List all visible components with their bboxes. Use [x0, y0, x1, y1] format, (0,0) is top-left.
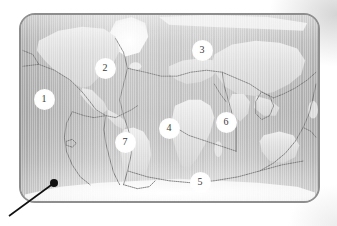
marker-7[interactable]: 7: [115, 132, 136, 153]
marker-6-label: 6: [224, 117, 229, 127]
tectonic-plates-figure: 1 2 3 4 5 6 7: [0, 0, 337, 226]
marker-1-label: 1: [42, 94, 47, 104]
marker-3[interactable]: 3: [192, 40, 213, 61]
map-vignette: [21, 15, 318, 201]
marker-1[interactable]: 1: [34, 89, 55, 110]
marker-4-label: 4: [167, 123, 172, 133]
marker-7-label: 7: [123, 137, 128, 147]
marker-5[interactable]: 5: [190, 172, 211, 193]
map-frame: [19, 13, 320, 203]
marker-4[interactable]: 4: [159, 118, 180, 139]
marker-3-label: 3: [200, 45, 205, 55]
map-canvas: [21, 15, 318, 201]
marker-2[interactable]: 2: [95, 58, 116, 79]
marker-6[interactable]: 6: [216, 112, 237, 133]
marker-5-label: 5: [198, 177, 203, 187]
marker-2-label: 2: [103, 63, 108, 73]
